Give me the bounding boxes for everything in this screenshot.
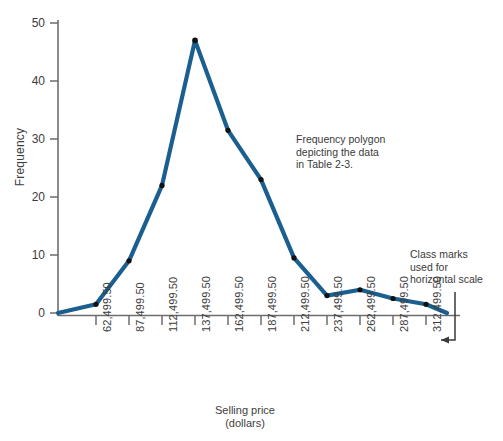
polygon-annotation: Frequency polygon depicting the data in …	[296, 133, 385, 171]
x-tick-label: 237,499.50	[332, 276, 344, 332]
y-axis-ticks	[50, 23, 58, 313]
y-tick-label: 50	[32, 16, 46, 30]
class-marks-annotation-line3: horizontal scale	[410, 273, 483, 286]
x-axis-title-line2: (dollars)	[150, 417, 340, 430]
x-axis-title: Selling price (dollars)	[150, 404, 340, 430]
class-marks-annotation: Class marks used for horizontal scale	[410, 248, 483, 286]
frequency-polygon-line	[58, 40, 447, 313]
polygon-annotation-line3: in Table 2-3.	[296, 158, 385, 171]
x-tick-label: 87,499.50	[134, 282, 146, 332]
x-tick-label: 262,499.50	[365, 276, 377, 332]
y-tick-label: 20	[32, 190, 46, 204]
x-tick-label: 112,499.50	[167, 277, 179, 332]
frequency-polygon-chart: 50 40 30 20 10 0 Frequency 62,499.50 87,…	[0, 0, 503, 441]
y-tick-label: 40	[32, 74, 46, 88]
x-axis-title-line1: Selling price	[150, 404, 340, 417]
y-tick-label: 30	[32, 132, 46, 146]
x-tick-label: 212,499.50	[299, 276, 311, 332]
y-tick-label: 10	[32, 248, 46, 262]
y-tick-label-group: 50 40 30 20 10 0	[32, 16, 46, 320]
y-axis-title: Frequency	[13, 107, 27, 207]
x-tick-label: 162,499.50	[233, 276, 245, 332]
polygon-annotation-line1: Frequency polygon	[296, 133, 385, 146]
x-tick-label: 187,499.50	[266, 276, 278, 332]
x-tick-label: 62,499.50	[101, 282, 113, 332]
class-marks-annotation-line2: used for	[410, 261, 483, 274]
data-point-markers	[93, 38, 428, 307]
x-tick-label: 287,499.50	[398, 276, 410, 332]
arrowhead-icon	[441, 337, 449, 344]
class-marks-annotation-line1: Class marks	[410, 248, 483, 261]
y-tick-label: 0	[38, 306, 45, 320]
x-tick-label: 137,499.50	[200, 276, 212, 332]
chart-canvas: 50 40 30 20 10 0	[0, 0, 503, 441]
polygon-annotation-line2: depicting the data	[296, 146, 385, 159]
